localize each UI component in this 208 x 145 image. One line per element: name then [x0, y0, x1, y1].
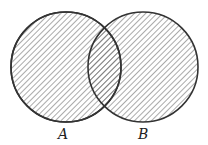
- set-a-label: A: [58, 126, 68, 142]
- venn-diagram: [0, 0, 208, 145]
- set-b-label: B: [138, 126, 148, 142]
